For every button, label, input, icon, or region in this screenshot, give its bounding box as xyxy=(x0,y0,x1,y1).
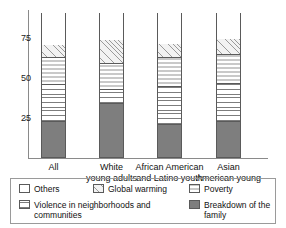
legend-label: Others xyxy=(34,184,60,194)
bar-column xyxy=(157,13,182,158)
chart-legend: OthersGlobal warmingPovertyViolence in n… xyxy=(10,178,276,224)
legend-swatch-icon xyxy=(19,184,30,193)
bar-column xyxy=(216,13,241,158)
y-tick-25: 25 xyxy=(0,119,31,120)
legend-swatch-icon xyxy=(19,200,30,209)
legend-swatch-icon xyxy=(93,184,104,193)
bar-segment xyxy=(42,45,65,58)
legend-label: Breakdown of the family xyxy=(204,200,275,220)
legend-label: Poverty xyxy=(204,184,233,194)
bar-segment xyxy=(217,84,240,122)
legend-item[interactable]: Global warming xyxy=(93,184,167,194)
bar-segment xyxy=(100,90,123,104)
bar-segment xyxy=(42,13,65,45)
legend-label: Violence in neighborhoods and communitie… xyxy=(34,200,151,220)
bar-segment xyxy=(42,85,65,122)
bar-segment xyxy=(100,104,123,158)
legend-item[interactable]: Violence in neighborhoods and communitie… xyxy=(19,200,151,220)
bar-segment xyxy=(217,39,240,55)
bar-segment xyxy=(217,55,240,84)
bar-segment xyxy=(100,64,123,90)
plot-area: 755025 AllWhite young adultsAfrican Amer… xyxy=(0,0,286,170)
bar-segment xyxy=(158,87,181,125)
bar-segment xyxy=(100,13,123,40)
y-tick-mark xyxy=(25,79,31,80)
legend-item[interactable]: Poverty xyxy=(189,184,233,194)
legend-item[interactable]: Others xyxy=(19,184,60,194)
bar-segment xyxy=(158,125,181,158)
legend-label: Global warming xyxy=(108,184,167,194)
y-tick-mark xyxy=(25,119,31,120)
bar-segment xyxy=(217,122,240,159)
bar-column xyxy=(41,13,66,158)
bar-segment xyxy=(42,122,65,159)
stacked-bar-chart: 755025 AllWhite young adultsAfrican Amer… xyxy=(0,0,286,228)
y-tick-50: 50 xyxy=(0,79,31,80)
y-tick-75: 75 xyxy=(0,39,31,40)
legend-item[interactable]: Breakdown of the family xyxy=(189,200,275,220)
legend-swatch-icon xyxy=(189,200,200,209)
bar-segment xyxy=(158,44,181,58)
y-tick-mark xyxy=(25,39,31,40)
bar-segment xyxy=(158,58,181,87)
bar-segment xyxy=(158,13,181,43)
bar-column xyxy=(99,13,124,158)
bar-segment xyxy=(42,58,65,85)
bar-segment xyxy=(100,40,123,64)
bar-segment xyxy=(217,13,240,39)
legend-swatch-icon xyxy=(189,184,200,193)
